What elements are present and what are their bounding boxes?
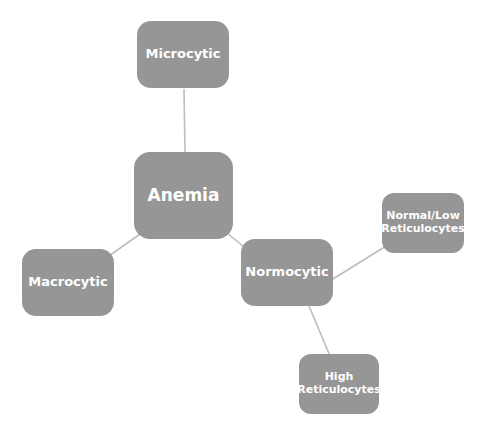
node-anemia[interactable]: Anemia: [134, 152, 233, 239]
edge-normocytic-high-retic: [309, 306, 330, 356]
edge-anemia-macrocytic: [109, 234, 140, 256]
node-normal-low-reticulocytes-label: Normal/Low Reticulocytes: [377, 210, 469, 235]
node-normocytic[interactable]: Normocytic: [241, 239, 333, 306]
diagram-canvas: Anemia Microcytic Macrocytic Normocytic …: [0, 0, 482, 437]
node-normal-low-reticulocytes[interactable]: Normal/Low Reticulocytes: [382, 193, 464, 253]
edge-anemia-microcytic: [184, 89, 185, 152]
edge-normocytic-normal-low-retic: [333, 246, 386, 279]
node-normocytic-label: Normocytic: [241, 265, 332, 280]
node-macrocytic-label: Macrocytic: [24, 275, 111, 290]
node-high-reticulocytes[interactable]: High Reticulocytes: [299, 354, 379, 414]
node-high-reticulocytes-label: High Reticulocytes: [293, 371, 385, 396]
node-microcytic[interactable]: Microcytic: [137, 21, 229, 88]
node-macrocytic[interactable]: Macrocytic: [22, 249, 114, 316]
node-anemia-label: Anemia: [144, 186, 224, 206]
node-microcytic-label: Microcytic: [142, 47, 225, 62]
